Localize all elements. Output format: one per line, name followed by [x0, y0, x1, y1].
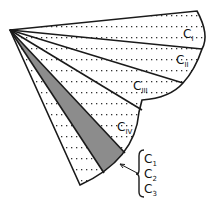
dotted-fill: [0, 0, 211, 203]
callout-labels: C1 C2 C3: [144, 152, 157, 198]
svg-text:C3: C3: [144, 182, 157, 198]
svg-text:C2: C2: [144, 167, 157, 183]
callout-arrow: [120, 164, 139, 174]
svg-text:C1: C1: [144, 152, 157, 168]
callout-brace: [136, 150, 144, 197]
fan-diagram: CI CII CIII CIV C1 C2 C3: [0, 0, 211, 203]
